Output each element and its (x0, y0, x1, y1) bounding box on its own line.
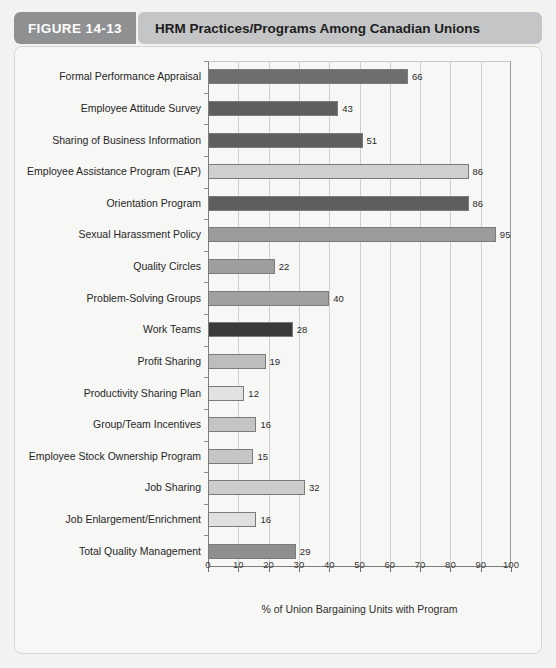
bar (208, 196, 469, 211)
category-label: Sharing of Business Information (23, 134, 201, 147)
bar (208, 291, 329, 306)
bar (208, 480, 305, 495)
bar (208, 322, 293, 337)
bar (208, 354, 266, 369)
bar-value-label: 40 (333, 291, 344, 306)
category-label: Productivity Sharing Plan (23, 387, 201, 400)
x-tick-label: 70 (415, 559, 426, 570)
category-tick (204, 504, 208, 505)
category-tick (204, 251, 208, 252)
category-label: Work Teams (23, 323, 201, 336)
x-tick-label: 30 (294, 559, 305, 570)
x-tick-label: 10 (233, 559, 244, 570)
gridline (420, 61, 421, 567)
figure-header: FIGURE 14-13 HRM Practices/Programs Amon… (14, 12, 542, 44)
bar (208, 417, 256, 432)
bar-value-label: 51 (367, 133, 378, 148)
bar (208, 386, 244, 401)
chart-panel: Formal Performance AppraisalEmployee Att… (14, 46, 542, 654)
category-label: Employee Stock Ownership Program (23, 450, 201, 463)
x-tick-label: 60 (385, 559, 396, 570)
category-tick (204, 219, 208, 220)
bar-value-label: 28 (297, 322, 308, 337)
plot-area: 66435186869522402819121615321629 (208, 61, 511, 567)
x-tick-label: 90 (475, 559, 486, 570)
bar-value-label: 95 (500, 227, 511, 242)
category-tick (204, 93, 208, 94)
category-label: Formal Performance Appraisal (23, 70, 201, 83)
category-tick (204, 61, 208, 62)
category-tick (204, 156, 208, 157)
category-label: Job Sharing (23, 481, 201, 494)
figure-number-tab: FIGURE 14-13 (14, 12, 136, 44)
bar (208, 164, 469, 179)
x-tick-label: 0 (205, 559, 210, 570)
x-axis-title: % of Union Bargaining Units with Program (208, 603, 511, 615)
bar-value-label: 32 (309, 480, 320, 495)
bar-value-label: 66 (412, 69, 423, 84)
category-tick (204, 535, 208, 536)
figure-title-tab: HRM Practices/Programs Among Canadian Un… (138, 12, 542, 44)
bar-value-label: 43 (342, 101, 353, 116)
category-tick (204, 124, 208, 125)
bar (208, 449, 253, 464)
category-label: Group/Team Incentives (23, 418, 201, 431)
category-label: Quality Circles (23, 260, 201, 273)
x-tick-label: 40 (324, 559, 335, 570)
bar-value-label: 19 (270, 354, 281, 369)
category-label: Problem-Solving Groups (23, 292, 201, 305)
x-tick-label: 100 (503, 559, 519, 570)
category-tick (204, 441, 208, 442)
bar (208, 227, 496, 242)
category-label: Total Quality Management (23, 545, 201, 558)
bar (208, 512, 256, 527)
category-tick (204, 472, 208, 473)
bar-value-label: 12 (248, 386, 259, 401)
category-label: Sexual Harassment Policy (23, 228, 201, 241)
category-label: Job Enlargement/Enrichment (23, 513, 201, 526)
category-tick (204, 346, 208, 347)
x-tick-label: 20 (263, 559, 274, 570)
gridline (450, 61, 451, 567)
x-tick-label: 50 (354, 559, 365, 570)
category-tick (204, 282, 208, 283)
bar (208, 101, 338, 116)
x-tick-label: 80 (445, 559, 456, 570)
bar-value-label: 15 (257, 449, 268, 464)
bar (208, 259, 275, 274)
bar-value-label: 86 (473, 164, 484, 179)
figure-number-label: FIGURE 14-13 (28, 21, 122, 36)
figure-title-label: HRM Practices/Programs Among Canadian Un… (155, 21, 480, 36)
bar-value-label: 22 (279, 259, 290, 274)
category-tick (204, 377, 208, 378)
figure-container: FIGURE 14-13 HRM Practices/Programs Amon… (0, 0, 556, 668)
category-axis-labels: Formal Performance AppraisalEmployee Att… (15, 61, 201, 567)
bar (208, 69, 408, 84)
gridline (481, 61, 482, 567)
category-label: Employee Assistance Program (EAP) (23, 165, 201, 178)
bar-value-label: 16 (260, 512, 271, 527)
bar (208, 544, 296, 559)
bar (208, 133, 363, 148)
category-tick (204, 188, 208, 189)
category-label: Orientation Program (23, 197, 201, 210)
bar-value-label: 29 (300, 544, 311, 559)
gridline (390, 61, 391, 567)
category-label: Employee Attitude Survey (23, 102, 201, 115)
category-tick (204, 314, 208, 315)
category-tick (204, 409, 208, 410)
bar-value-label: 86 (473, 196, 484, 211)
bar-value-label: 16 (260, 417, 271, 432)
category-label: Profit Sharing (23, 355, 201, 368)
